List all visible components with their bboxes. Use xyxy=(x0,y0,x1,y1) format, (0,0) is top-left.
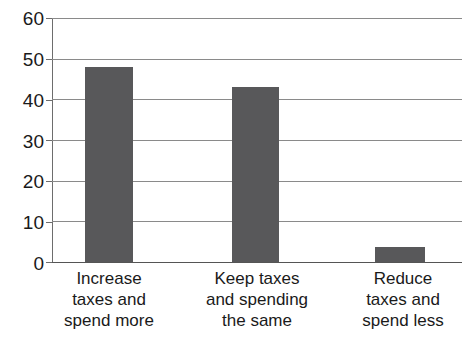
y-tick-label-20: 20 xyxy=(0,172,44,191)
y-tick-label-30: 30 xyxy=(0,132,44,151)
gridline-60 xyxy=(52,18,462,19)
bar-increase-taxes-and-spend-more xyxy=(85,67,133,262)
x-label-line-1: Keep taxes xyxy=(192,268,322,289)
x-label-increase-taxes-and-spend-more: Increase taxes and spend more xyxy=(46,268,172,331)
bar-keep-taxes-and-spending-the-same xyxy=(232,87,279,262)
y-tick-label-0: 0 xyxy=(0,254,44,273)
x-label-line-3: spend more xyxy=(46,310,172,331)
y-tick-label-10: 10 xyxy=(0,213,44,232)
x-axis-category-labels: Increase taxes and spend more Keep taxes… xyxy=(52,268,462,340)
y-tick-label-40: 40 xyxy=(0,91,44,110)
x-label-reduce-taxes-and-spend-less: Reduce taxes and spend less xyxy=(340,268,466,331)
x-label-line-2: taxes and xyxy=(340,289,466,310)
x-label-line-3: the same xyxy=(192,310,322,331)
x-label-line-1: Reduce xyxy=(340,268,466,289)
x-label-keep-taxes-and-spending-the-same: Keep taxes and spending the same xyxy=(192,268,322,331)
y-tick-label-60: 60 xyxy=(0,9,44,28)
x-label-line-3: spend less xyxy=(340,310,466,331)
x-label-line-1: Increase xyxy=(46,268,172,289)
gridline-baseline-0 xyxy=(52,262,462,263)
bar-chart-figure: 60 50 40 30 20 10 0 Incr xyxy=(0,0,469,343)
y-tick-label-50: 50 xyxy=(0,50,44,69)
x-label-line-2: and spending xyxy=(192,289,322,310)
bar-reduce-taxes-and-spend-less xyxy=(375,247,425,262)
x-label-line-2: taxes and xyxy=(46,289,172,310)
plot-area xyxy=(52,18,462,262)
gridline-50 xyxy=(52,59,462,60)
